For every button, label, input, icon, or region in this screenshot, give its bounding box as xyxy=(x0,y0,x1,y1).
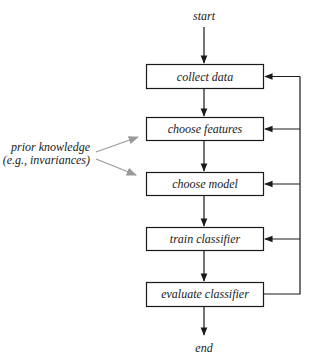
end-label: end xyxy=(195,341,213,355)
prior-knowledge-line2: (e.g., invariances) xyxy=(3,153,90,167)
feedback-trunk xyxy=(264,77,300,295)
prior-knowledge-line1: prior knowledge xyxy=(10,140,91,154)
prior-arrow-to-model xyxy=(96,159,136,175)
feedback-loop xyxy=(264,77,300,295)
step-label: evaluate classifier xyxy=(161,287,249,301)
step-collect-data: collect data xyxy=(147,65,264,89)
prior-knowledge-note: prior knowledge (e.g., invariances) xyxy=(3,137,138,175)
step-label: train classifier xyxy=(170,232,241,246)
step-choose-model: choose model xyxy=(147,173,264,196)
step-label: choose features xyxy=(168,122,243,136)
step-train-classifier: train classifier xyxy=(147,228,264,251)
step-choose-features: choose features xyxy=(147,118,264,141)
step-label: choose model xyxy=(172,177,238,191)
start-label: start xyxy=(193,9,216,23)
design-cycle-diagram: start collect data choose features choos… xyxy=(0,0,316,364)
step-label: collect data xyxy=(177,70,233,84)
prior-arrow-to-features xyxy=(96,137,138,152)
step-evaluate-classifier: evaluate classifier xyxy=(147,283,264,307)
